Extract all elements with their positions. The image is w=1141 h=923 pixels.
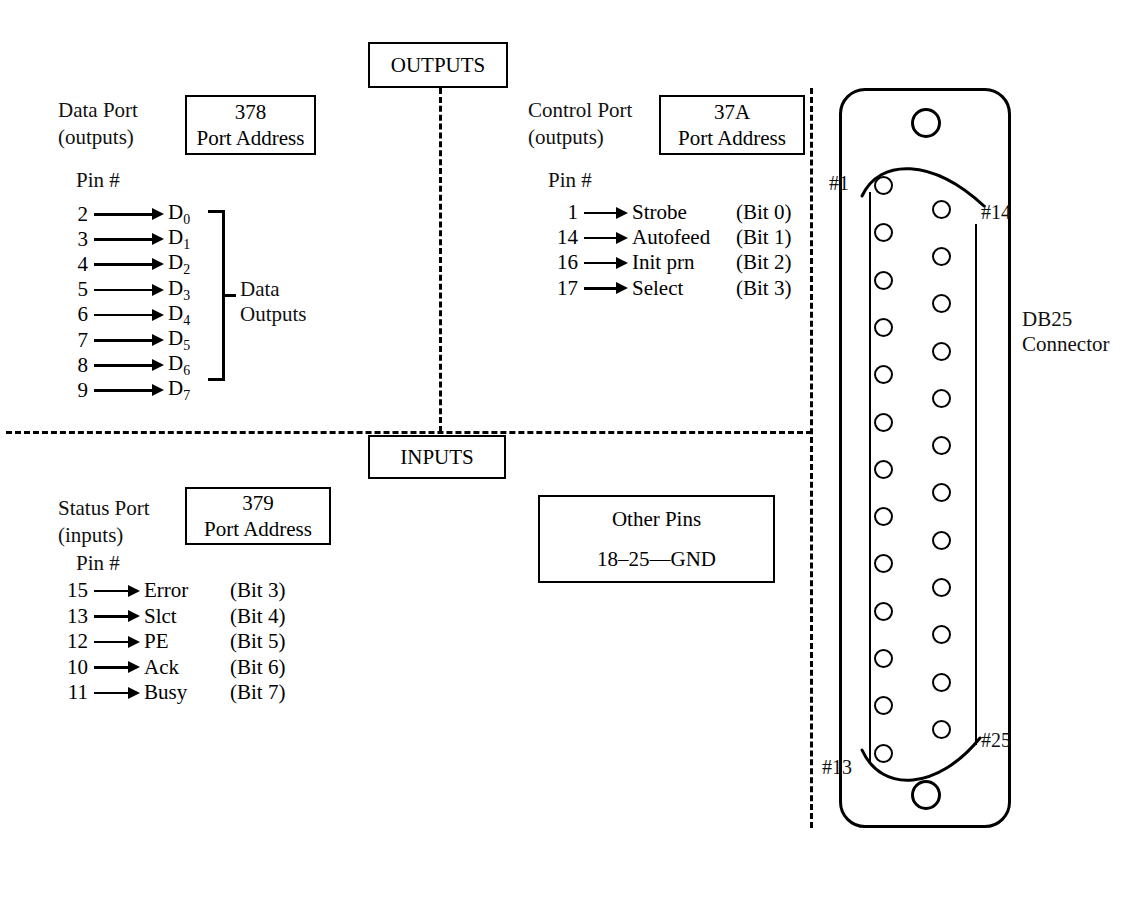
pin-mapping-row: 1Strobe(Bit 0) <box>552 200 791 225</box>
connector-pin-hole <box>932 673 951 692</box>
connector-bottom-arc <box>860 732 992 794</box>
pin-mapping-row: 17Select(Bit 3) <box>552 276 791 301</box>
inputs-section-label: INPUTS <box>400 444 474 470</box>
signal-name: Autofeed <box>632 225 736 250</box>
pin-number: 15 <box>62 578 88 603</box>
pin-number: 16 <box>552 250 578 275</box>
control-port-address-caption: Port Address <box>678 125 786 151</box>
connector-pin-hole <box>874 460 893 479</box>
arrow-icon <box>94 384 164 396</box>
bit-label: (Bit 4) <box>230 604 285 629</box>
arrow-icon <box>584 282 628 294</box>
signal-name: D4 <box>168 301 190 329</box>
status-port-name-line1: Status Port <box>58 496 150 521</box>
arrow-icon <box>94 687 140 699</box>
signal-name: D1 <box>168 225 190 253</box>
arrow-icon <box>94 661 140 673</box>
arrow-icon <box>94 585 140 597</box>
control-port-address: 37A <box>714 99 750 125</box>
bit-label: (Bit 3) <box>230 578 285 603</box>
connector-pin-hole <box>932 389 951 408</box>
pin-mapping-row: 4D2 <box>62 250 190 278</box>
control-port-name-line2: (outputs) <box>528 125 604 150</box>
other-pins-detail: 18–25—GND <box>597 546 716 572</box>
signal-name: Init prn <box>632 250 736 275</box>
bit-label: (Bit 7) <box>230 680 285 705</box>
arrow-icon <box>94 636 140 648</box>
signal-name: Slct <box>144 604 230 629</box>
connector-pin25-label: #25 <box>981 729 1011 753</box>
data-port-address-box: 378 Port Address <box>185 95 316 155</box>
data-outputs-group-label-line2: Outputs <box>240 302 307 327</box>
arrow-icon <box>94 233 164 245</box>
arrow-icon <box>94 284 164 296</box>
bit-label: (Bit 3) <box>736 276 791 301</box>
pin-number: 9 <box>62 378 88 403</box>
db25-connector-label-line1: DB25 <box>1022 307 1072 332</box>
signal-name: Busy <box>144 680 230 705</box>
db25-connector-label-line2: Connector <box>1022 332 1109 357</box>
left-column-guide-line <box>869 192 871 762</box>
connector-pin-hole <box>932 531 951 550</box>
pin-number: 12 <box>62 629 88 654</box>
parallel-port-diagram: OUTPUTS INPUTS Data Port (outputs) Pin #… <box>0 0 1141 923</box>
connector-pin-hole <box>874 318 893 337</box>
pin-mapping-row: 5D3 <box>62 276 190 304</box>
connector-pin1-label: #1 <box>829 172 849 196</box>
bit-label: (Bit 6) <box>230 655 285 680</box>
connector-pin-hole <box>932 247 951 266</box>
data-port-address: 378 <box>235 99 267 125</box>
connector-pin-hole <box>874 649 893 668</box>
pin-number: 14 <box>552 225 578 250</box>
arrow-icon <box>584 207 628 219</box>
connector-mounting-hole-top <box>911 108 941 138</box>
connector-pin13-label: #13 <box>822 756 852 780</box>
pin-number: 17 <box>552 276 578 301</box>
connector-pin-hole <box>874 602 893 621</box>
data-port-pin-heading: Pin # <box>76 168 120 193</box>
data-port-address-caption: Port Address <box>197 125 305 151</box>
outputs-vertical-divider <box>439 88 442 432</box>
signal-name: D6 <box>168 351 190 379</box>
signal-name: D0 <box>168 200 190 228</box>
pin-number: 11 <box>62 680 88 705</box>
pin-mapping-row: 10Ack(Bit 6) <box>62 655 285 680</box>
outputs-section-label: OUTPUTS <box>391 52 486 78</box>
right-column-guide-line <box>975 224 977 745</box>
data-port-name-line1: Data Port <box>58 98 138 123</box>
bit-label: (Bit 2) <box>736 250 791 275</box>
connector-pin-hole <box>932 342 951 361</box>
arrow-icon <box>584 257 628 269</box>
inputs-section-box: INPUTS <box>368 435 506 479</box>
pin-mapping-row: 7D5 <box>62 326 190 354</box>
signal-name: PE <box>144 629 230 654</box>
signal-name: Ack <box>144 655 230 680</box>
control-port-address-box: 37A Port Address <box>659 95 805 155</box>
bit-label: (Bit 5) <box>230 629 285 654</box>
status-port-name-line2: (inputs) <box>58 523 123 548</box>
pin-mapping-row: 14Autofeed(Bit 1) <box>552 225 791 250</box>
control-port-name-line1: Control Port <box>528 98 632 123</box>
connector-pin-hole <box>932 436 951 455</box>
outputs-inputs-horizontal-divider <box>6 431 812 434</box>
status-port-address: 379 <box>242 490 274 516</box>
pin-mapping-row: 2D0 <box>62 200 190 228</box>
other-pins-box: Other Pins 18–25—GND <box>538 495 775 583</box>
pin-mapping-row: 3D1 <box>62 225 190 253</box>
connector-pin-hole <box>874 271 893 290</box>
other-pins-heading: Other Pins <box>612 506 701 532</box>
arrow-icon <box>94 610 140 622</box>
connector-pin-hole <box>874 507 893 526</box>
pin-number: 4 <box>62 252 88 277</box>
data-outputs-group-label-line1: Data <box>240 277 280 302</box>
status-port-address-box: 379 Port Address <box>185 487 331 545</box>
bit-label: (Bit 0) <box>736 200 791 225</box>
pin-number: 10 <box>62 655 88 680</box>
pin-number: 2 <box>62 202 88 227</box>
pin-number: 1 <box>552 200 578 225</box>
pin-number: 13 <box>62 604 88 629</box>
pin-mapping-row: 8D6 <box>62 351 190 379</box>
signal-name: Strobe <box>632 200 736 225</box>
data-outputs-bracket-tick <box>225 294 236 297</box>
pin-mapping-row: 12PE(Bit 5) <box>62 629 285 654</box>
